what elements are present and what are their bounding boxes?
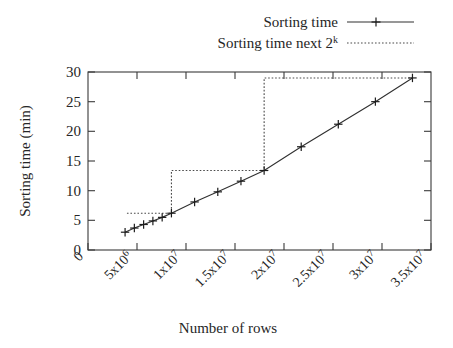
x-tick-label-35e6: 3.5x107 (386, 247, 429, 290)
data-point-marker (190, 198, 198, 206)
data-point-marker (121, 228, 129, 236)
chart-svg: Sorting time Sorting time next 2k (0, 0, 453, 348)
x-axis-title: Number of rows (179, 320, 277, 336)
x-tick-label-25e6-group: 2.5x107 (288, 247, 331, 290)
data-point-marker (130, 224, 138, 232)
data-point-marker (371, 97, 379, 105)
data-point-marker (334, 120, 342, 128)
legend-label-sorting-time-next-2k: Sorting time next 2k (218, 34, 338, 51)
x-tick-label-2e7-group: 2x107 (247, 247, 282, 282)
data-point-marker (167, 209, 175, 217)
y-axis-ticks: 0 5 10 15 20 25 30 (66, 64, 431, 258)
legend-label-superscript-k: k (333, 34, 338, 45)
legend-label-main-text: Sorting time next 2 (218, 35, 333, 51)
x-tick-label-1e7-group: 1x107 (149, 247, 184, 282)
data-point-marker (149, 217, 157, 225)
data-point-marker (297, 143, 305, 151)
x-tick-label-25e6: 2.5x107 (288, 247, 331, 290)
series-line-sorting-time (125, 78, 412, 232)
x-tick-label-3e7: 3x107 (345, 247, 380, 282)
y-tick-label-20: 20 (66, 123, 81, 139)
y-tick-label-5: 5 (74, 212, 82, 228)
y-axis-title: Sorting time (min) (17, 105, 34, 217)
legend-label-sorting-time: Sorting time (263, 14, 338, 30)
chart-legend: Sorting time Sorting time next 2k (218, 14, 414, 51)
x-tick-label-5e6: 5x106 (100, 247, 135, 282)
data-point-marker (260, 166, 268, 174)
y-tick-label-25: 25 (66, 94, 81, 110)
chart-figure: Sorting time Sorting time next 2k (0, 0, 453, 348)
x-tick-label-15e6-group: 1.5x107 (190, 247, 233, 290)
legend-sample-cross-marker (372, 18, 381, 27)
x-tick-label-2e7: 2x107 (247, 247, 282, 282)
y-tick-label-10: 10 (66, 183, 81, 199)
y-tick-label-30: 30 (66, 64, 81, 80)
legend-entry-sorting-time-next-2k: Sorting time next 2k (218, 34, 414, 51)
data-point-marker (139, 220, 147, 228)
x-axis-ticks: 0 5x106 1x107 1.5x107 2x107 2.5x107 3x10… (71, 72, 431, 290)
series-line-sorting-time-next-2k (127, 78, 413, 213)
legend-entry-sorting-time: Sorting time (263, 14, 414, 30)
x-tick-label-1e7: 1x107 (149, 247, 184, 282)
x-tick-label-5e6-group: 5x106 (100, 247, 135, 282)
data-point-marker (214, 188, 222, 196)
x-tick-label-3e7-group: 3x107 (345, 247, 380, 282)
x-tick-label-35e6-group: 3.5x107 (386, 247, 429, 290)
data-point-marker (408, 74, 416, 82)
data-point-marker (158, 213, 166, 221)
data-point-marker (237, 177, 245, 185)
series-markers-sorting-time (121, 74, 417, 237)
y-tick-label-15: 15 (66, 153, 81, 169)
x-tick-label-15e6: 1.5x107 (190, 247, 233, 290)
